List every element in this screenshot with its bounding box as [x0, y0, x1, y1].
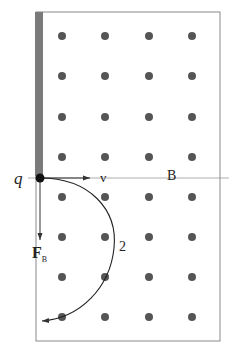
field-dot — [58, 72, 66, 80]
field-dot — [58, 233, 66, 241]
field-dot — [101, 313, 109, 321]
field-dot — [101, 193, 109, 201]
force-label-main: F — [32, 244, 42, 261]
field-dot — [188, 313, 196, 321]
field-dot — [101, 153, 109, 161]
field-label: B — [167, 169, 176, 183]
field-dot — [58, 273, 66, 281]
field-dot — [188, 32, 196, 40]
field-dot — [101, 113, 109, 121]
path-number-label: 2 — [119, 240, 126, 254]
field-dot — [145, 153, 153, 161]
field-dot — [188, 273, 196, 281]
field-dot — [145, 233, 153, 241]
field-dot — [101, 32, 109, 40]
field-region-border — [36, 12, 220, 341]
field-dot — [188, 233, 196, 241]
velocity-label: v — [100, 171, 107, 184]
field-dot — [101, 72, 109, 80]
field-dot — [188, 113, 196, 121]
field-dot — [145, 72, 153, 80]
field-dot — [58, 113, 66, 121]
field-dot — [58, 32, 66, 40]
force-label: FB — [32, 245, 47, 264]
force-label-subscript: B — [42, 255, 47, 264]
field-dot — [145, 32, 153, 40]
field-dot — [58, 193, 66, 201]
field-dot — [145, 113, 153, 121]
field-dot — [145, 193, 153, 201]
left-plate — [35, 12, 43, 176]
field-dot — [145, 273, 153, 281]
charge-label: q — [14, 170, 23, 187]
field-dot — [58, 153, 66, 161]
charge-particle — [36, 174, 45, 183]
field-dot — [101, 233, 109, 241]
field-dot — [188, 72, 196, 80]
field-dot — [145, 313, 153, 321]
field-dot — [188, 153, 196, 161]
magnetic-field-diagram — [0, 0, 229, 352]
field-dot — [188, 193, 196, 201]
